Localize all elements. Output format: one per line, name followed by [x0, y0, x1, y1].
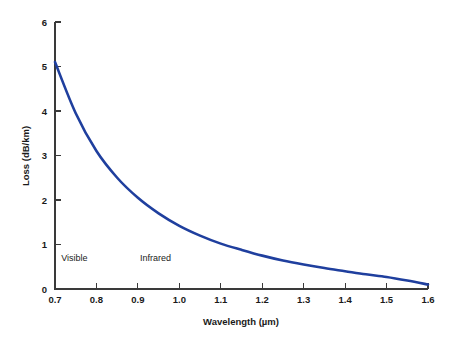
y-tick-label-4: 4	[42, 106, 48, 117]
x-tick-label-0.9: 0.9	[131, 294, 144, 305]
x-axis-title: Wavelength (µm)	[203, 316, 279, 327]
y-tick-label-6: 6	[42, 17, 47, 28]
y-axis-title: Loss (dB/km)	[20, 126, 31, 186]
chart-background	[0, 0, 459, 339]
y-tick-label-2: 2	[42, 195, 47, 206]
x-tick-label-1.3: 1.3	[297, 294, 310, 305]
x-tick-label-1.4: 1.4	[339, 294, 353, 305]
x-tick-label-1.6: 1.6	[421, 294, 434, 305]
x-tick-label-1.5: 1.5	[380, 294, 394, 305]
y-tick-label-0: 0	[42, 284, 47, 295]
x-tick-label-1.0: 1.0	[173, 294, 186, 305]
y-tick-label-5: 5	[42, 61, 48, 72]
loss-vs-wavelength-chart: 0123456 0.70.80.91.01.11.21.31.41.51.6 V…	[0, 0, 459, 339]
y-tick-label-3: 3	[42, 150, 47, 161]
x-tick-label-1.2: 1.2	[256, 294, 269, 305]
x-tick-label-0.7: 0.7	[48, 294, 61, 305]
x-tick-label-1.1: 1.1	[214, 294, 228, 305]
annotation-visible: Visible	[61, 253, 87, 263]
chart-figure: 0123456 0.70.80.91.01.11.21.31.41.51.6 V…	[0, 0, 459, 339]
annotation-infrared: Infrared	[140, 253, 171, 263]
y-tick-label-1: 1	[42, 239, 48, 250]
x-tick-label-0.8: 0.8	[90, 294, 103, 305]
